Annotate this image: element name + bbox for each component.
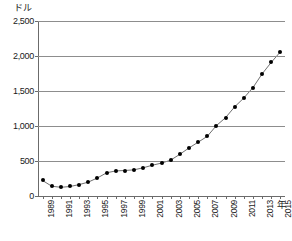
x-tick-mark [235, 196, 236, 199]
plot-area [38, 21, 285, 196]
x-tick-mark [198, 196, 199, 199]
x-tick-mark [271, 196, 272, 199]
x-tick-mark [262, 196, 263, 199]
y-tick-mark [35, 196, 38, 197]
series-line [38, 21, 285, 196]
line-chart: ドル 05001,0001,5002,0002,500 年 1989199119… [0, 0, 292, 241]
x-tick-mark [280, 196, 281, 199]
data-point [187, 146, 191, 150]
data-point [233, 105, 237, 109]
x-tick-label: 1995 [101, 200, 110, 218]
x-tick-label: 1989 [47, 200, 56, 218]
data-point [132, 168, 136, 172]
x-tick-label: 2011 [248, 200, 257, 217]
y-tick-label: 0 [0, 192, 34, 201]
x-tick-label: 2001 [156, 200, 165, 218]
x-tick-mark [116, 196, 117, 199]
x-tick-label: 2005 [193, 200, 202, 218]
data-point [260, 72, 264, 76]
x-tick-mark [88, 196, 89, 199]
data-point [50, 184, 54, 188]
x-tick-mark [97, 196, 98, 199]
x-tick-label: 1993 [83, 200, 92, 218]
x-tick-mark [244, 196, 245, 199]
x-tick-mark [107, 196, 108, 199]
data-point [160, 161, 164, 165]
data-point [141, 166, 145, 170]
x-tick-label: 2007 [211, 200, 220, 218]
y-tick-label: 2,000 [0, 52, 34, 61]
x-tick-mark [125, 196, 126, 199]
x-tick-mark [171, 196, 172, 199]
data-point [77, 183, 81, 187]
x-tick-label: 2015 [284, 200, 292, 218]
x-tick-mark [134, 196, 135, 199]
x-tick-mark [189, 196, 190, 199]
y-tick-label: 500 [0, 157, 34, 166]
x-tick-mark [70, 196, 71, 199]
y-tick-label: 1,500 [0, 87, 34, 96]
data-point [123, 169, 127, 173]
x-tick-label: 1991 [65, 200, 74, 218]
gridline-2000 [38, 56, 285, 57]
x-tick-mark [226, 196, 227, 199]
gridline-1500 [38, 91, 285, 92]
x-tick-mark [180, 196, 181, 199]
y-tick-mark [35, 126, 38, 127]
x-tick-mark [152, 196, 153, 199]
x-tick-label: 1997 [120, 200, 129, 218]
y-tick-mark [35, 56, 38, 57]
x-tick-label: 2013 [266, 200, 275, 218]
data-point [242, 96, 246, 100]
gridline-1000 [38, 126, 285, 127]
y-axis-tick-labels: 05001,0001,5002,0002,500 [0, 0, 34, 241]
x-tick-mark [216, 196, 217, 199]
data-point [224, 116, 228, 120]
x-tick-mark [52, 196, 53, 199]
x-tick-mark [79, 196, 80, 199]
x-tick-mark [43, 196, 44, 199]
x-tick-mark [143, 196, 144, 199]
y-tick-mark [35, 21, 38, 22]
x-tick-mark [253, 196, 254, 199]
x-tick-label: 2009 [230, 200, 239, 218]
y-tick-mark [35, 161, 38, 162]
x-tick-label: 2003 [175, 200, 184, 218]
x-tick-mark [162, 196, 163, 199]
data-point [251, 86, 255, 90]
y-tick-mark [35, 91, 38, 92]
y-tick-label: 2,500 [0, 17, 34, 26]
data-point [114, 169, 118, 173]
x-tick-label: 1999 [138, 200, 147, 218]
y-tick-label: 1,000 [0, 122, 34, 131]
x-tick-mark [61, 196, 62, 199]
gridline-2500 [38, 21, 285, 22]
data-point [169, 158, 173, 162]
x-tick-mark [207, 196, 208, 199]
data-point [105, 171, 109, 175]
